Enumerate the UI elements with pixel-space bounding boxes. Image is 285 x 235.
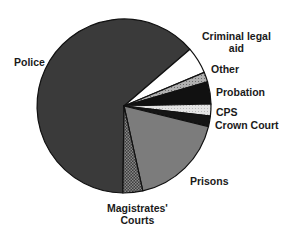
label-crown-court: Crown Court [215, 119, 279, 131]
label-criminal-legal-aid-line2: aid [202, 42, 271, 54]
label-criminal-legal-aid: Criminal legal aid [202, 30, 271, 54]
label-magistrates-line1: Magistrates' [107, 202, 168, 214]
label-police: Police [14, 56, 45, 68]
label-other: Other [211, 63, 239, 75]
label-prisons: Prisons [190, 175, 229, 187]
label-probation: Probation [216, 86, 265, 98]
label-cps: CPS [216, 106, 238, 118]
label-criminal-legal-aid-line1: Criminal legal [202, 30, 271, 42]
label-magistrates-courts: Magistrates' Courts [107, 202, 168, 226]
label-magistrates-line2: Courts [107, 214, 168, 226]
